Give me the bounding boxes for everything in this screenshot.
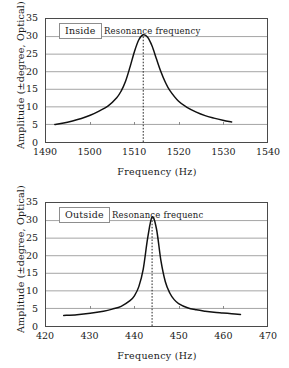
y-tick-label: 15 xyxy=(12,84,38,94)
y-tick-label: 20 xyxy=(12,67,38,77)
gridlines-outside xyxy=(46,221,267,309)
chart-panel-inside: Amplitude (±degree, Optical) 05101520253… xyxy=(0,0,289,184)
y-tick-label: 10 xyxy=(12,102,38,112)
resonance-annotation-inside: Resonance frequency xyxy=(104,26,200,37)
resonance-annotation-outside: Resonance frequenc xyxy=(112,210,203,221)
y-tick-label: 5 xyxy=(12,120,38,130)
x-tick-label: 1520 xyxy=(157,146,201,157)
x-tick-mark xyxy=(90,306,91,309)
series-label-inside: Inside xyxy=(59,23,102,39)
y-tick-label: 35 xyxy=(12,197,38,207)
x-tick-label: 420 xyxy=(23,330,67,341)
y-tick-label: 5 xyxy=(12,304,38,314)
chart-panel-outside: Amplitude (±degree, Optical) 05101520253… xyxy=(0,184,289,368)
x-tick-label: 440 xyxy=(112,330,156,341)
x-tick-mark xyxy=(179,306,180,309)
y-axis-title-inside: Amplitude (±degree, Optical) xyxy=(13,0,29,160)
x-tick-label: 1540 xyxy=(246,146,289,157)
x-tick-label: 1490 xyxy=(23,146,67,157)
x-tick-label: 1530 xyxy=(201,146,245,157)
x-tick-label: 1510 xyxy=(112,146,156,157)
x-tick-label: 450 xyxy=(157,330,201,341)
x-tick-mark xyxy=(223,122,224,125)
x-tick-label: 470 xyxy=(246,330,289,341)
y-tick-label: 25 xyxy=(12,49,38,59)
x-tick-mark xyxy=(223,306,224,309)
series-label-outside: Outside xyxy=(59,207,110,223)
curve-path-inside xyxy=(55,35,232,125)
y-tick-label: 30 xyxy=(12,31,38,41)
x-axis-title-inside: Frequency (Hz) xyxy=(45,166,269,177)
x-tick-mark xyxy=(134,122,135,125)
x-tick-mark xyxy=(179,122,180,125)
x-tick-label: 460 xyxy=(201,330,245,341)
x-tick-mark xyxy=(90,122,91,125)
x-tick-label: 430 xyxy=(68,330,112,341)
y-tick-label: 10 xyxy=(12,286,38,296)
resonance-figure: Amplitude (±degree, Optical) 05101520253… xyxy=(0,0,289,368)
y-tick-label: 25 xyxy=(12,233,38,243)
x-tick-mark xyxy=(134,306,135,309)
y-tick-label: 15 xyxy=(12,268,38,278)
y-tick-label: 35 xyxy=(12,13,38,23)
x-axis-title-outside: Frequency (Hz) xyxy=(45,350,269,361)
y-tick-label: 20 xyxy=(12,251,38,261)
x-tick-label: 1500 xyxy=(68,146,112,157)
gridlines-inside xyxy=(46,37,267,125)
y-tick-label: 30 xyxy=(12,215,38,225)
